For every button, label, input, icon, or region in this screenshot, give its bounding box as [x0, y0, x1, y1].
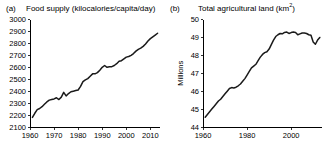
- x-tick-label-1960: 1960: [195, 131, 212, 140]
- series-line-0: [205, 32, 320, 117]
- x-tick-label-2000: 2000: [118, 131, 135, 140]
- panel-a-food-supply: (a) Food supply (kilocalories/capita/day…: [0, 0, 165, 155]
- series-line-0: [32, 33, 157, 117]
- y-tick-label-2700: 2700: [9, 51, 26, 60]
- x-tick-label-1990: 1990: [94, 131, 111, 140]
- figure-container: (a) Food supply (kilocalories/capita/day…: [0, 0, 327, 155]
- x-tick-label-1980: 1980: [239, 131, 256, 140]
- panel-a-plot: 2100220023002400250026002700280029003000…: [0, 0, 165, 155]
- y-tick-label-46: 46: [191, 87, 199, 96]
- y-tick-label-48: 48: [191, 51, 199, 60]
- y-tick-label-3000: 3000: [9, 15, 26, 24]
- y-axis-title: Millions: [176, 61, 185, 86]
- y-tick-label-49: 49: [191, 33, 199, 42]
- y-tick-label-2400: 2400: [9, 87, 26, 96]
- panel-b-agricultural-land: (b) Total agricultural land (km2) 444546…: [165, 0, 327, 155]
- x-tick-label-1960: 1960: [22, 131, 39, 140]
- y-tick-label-50: 50: [191, 15, 199, 24]
- y-tick-label-2200: 2200: [9, 111, 26, 120]
- y-tick-label-2300: 2300: [9, 99, 26, 108]
- x-tick-label-1970: 1970: [46, 131, 63, 140]
- x-tick-label-1980: 1980: [70, 131, 87, 140]
- y-tick-label-47: 47: [191, 69, 199, 78]
- panel-b-plot: 44454647484950196019802000Millions: [165, 0, 327, 155]
- x-tick-label-2010: 2010: [142, 131, 159, 140]
- y-tick-label-45: 45: [191, 105, 199, 114]
- axis-spines: [203, 20, 322, 128]
- y-tick-label-2800: 2800: [9, 39, 26, 48]
- x-tick-label-2000: 2000: [283, 131, 300, 140]
- y-tick-label-2500: 2500: [9, 75, 26, 84]
- y-tick-label-2900: 2900: [9, 27, 26, 36]
- y-tick-label-2600: 2600: [9, 63, 26, 72]
